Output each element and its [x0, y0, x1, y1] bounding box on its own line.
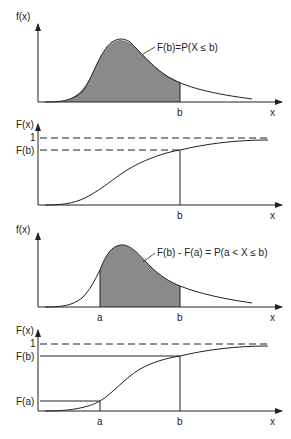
y-axis-label: F(x): [16, 119, 34, 130]
panel-cdf-b: F(x) 1 F(b) b x: [16, 119, 282, 221]
level-fb-label: F(b): [16, 351, 34, 362]
x-axis-label: x: [270, 210, 275, 221]
level-fb-label: F(b): [16, 145, 34, 156]
level-fa-label: F(a): [16, 396, 34, 407]
y-axis-label: F(x): [16, 325, 34, 336]
annotation-leader: [143, 47, 155, 54]
level-one-label: 1: [30, 132, 36, 143]
y-axis-label: f(x): [16, 11, 30, 22]
x-axis-label: x: [270, 312, 275, 323]
x-axis-label: x: [270, 107, 275, 118]
tick-b: b: [177, 210, 183, 221]
x-axis-label: x: [270, 416, 275, 427]
panel-cdf-interval: F(x) 1 F(b) F(a) a b x: [16, 325, 282, 427]
y-axis-label: f(x): [16, 224, 30, 235]
panel-pdf-interval: f(x) F(b) - F(a) = P(a < X ≤ b) a b x: [16, 224, 282, 323]
tick-b: b: [177, 416, 183, 427]
tick-a: a: [97, 312, 103, 323]
panel-pdf-cumulative: f(x) F(b)=P(X ≤ b) b x: [16, 11, 282, 118]
tick-b: b: [177, 312, 183, 323]
probability-diagram: f(x) F(b)=P(X ≤ b) b x F(x) 1 F(b) b x f…: [0, 0, 291, 439]
annotation-label: F(b)=P(X ≤ b): [157, 42, 218, 53]
level-one-label: 1: [30, 338, 36, 349]
tick-a: a: [97, 416, 103, 427]
annotation-leader: [143, 253, 155, 262]
tick-b: b: [177, 107, 183, 118]
annotation-label: F(b) - F(a) = P(a < X ≤ b): [157, 247, 268, 258]
